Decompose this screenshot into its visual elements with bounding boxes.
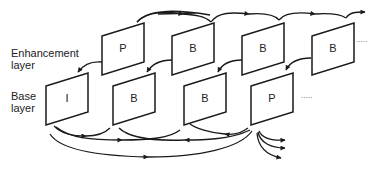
base-to-enh-arrow-3 xyxy=(218,60,242,72)
base-frame-4-type-label: P xyxy=(268,92,275,104)
layered-frame-diagram: PBBB IBBP ..... ..... xyxy=(0,0,380,173)
base-frame-2-type-label: B xyxy=(130,92,137,104)
enhancement-frame-3-type-label: B xyxy=(259,42,266,54)
base-to-enh-arrow-4 xyxy=(286,58,311,70)
base-continuation: ..... xyxy=(301,91,312,100)
base-arrow-i-to-b1-end xyxy=(86,128,110,136)
enhancement-frame-1-type-label: P xyxy=(119,42,126,54)
enh-arrow-top-2b xyxy=(249,14,279,20)
enh-arrow-top-3 xyxy=(279,13,315,20)
enh-arrow-top-2 xyxy=(211,13,249,22)
base-to-enh-arrow-2 xyxy=(147,60,172,72)
enh-arrow-top-4 xyxy=(346,12,365,18)
base-arrow-i-to-p xyxy=(50,134,148,157)
base-arrow-p-to-b2 xyxy=(225,128,248,134)
base-to-enh-arrow-1 xyxy=(78,62,102,72)
enhancement-continuation: ..... xyxy=(356,35,367,44)
base-out-arrow-1 xyxy=(259,131,285,140)
enhancement-frame-2-type-label: B xyxy=(189,42,196,54)
enh-arrow-top-3b xyxy=(315,14,346,18)
base-arrow-p-to-b1 xyxy=(185,130,250,140)
enh-arrow-top-1b xyxy=(183,14,211,22)
enhancement-frame-4-type-label: B xyxy=(329,42,336,54)
base-arrow-p-to-b2-b xyxy=(190,124,225,134)
base-frame-3-type-label: B xyxy=(201,92,208,104)
base-arrow-i-to-b2 xyxy=(56,127,122,140)
base-frame-1-type-label: I xyxy=(65,92,68,104)
